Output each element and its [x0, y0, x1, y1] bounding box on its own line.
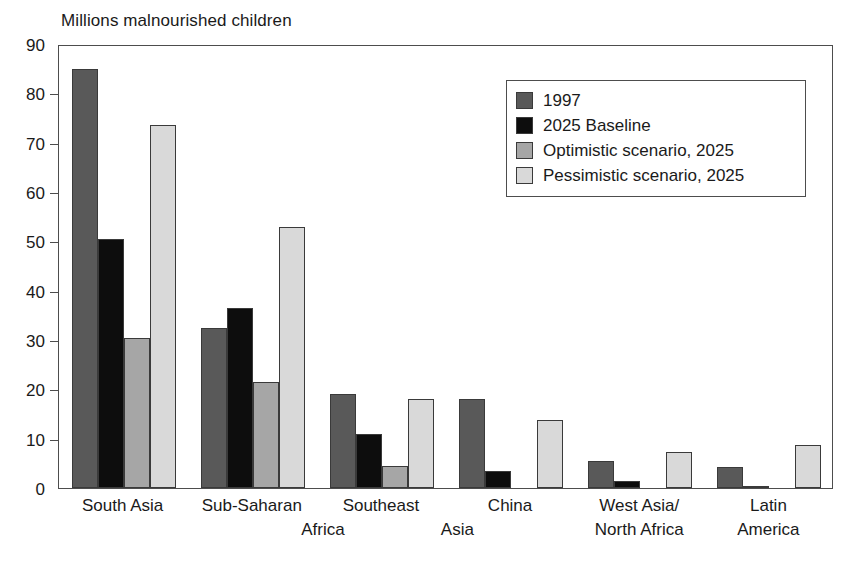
- bar: [98, 239, 124, 488]
- x-axis-label-line: South Asia: [82, 496, 163, 515]
- bar: [227, 308, 253, 488]
- x-axis-label-line: Asia: [286, 518, 476, 542]
- y-tick-mark: [50, 144, 58, 145]
- bar: [795, 445, 821, 488]
- bar: [588, 461, 614, 488]
- chart-legend: 19972025 BaselineOptimistic scenario, 20…: [506, 80, 806, 197]
- y-tick-label: 30: [26, 333, 45, 350]
- legend-item: Pessimistic scenario, 2025: [516, 163, 796, 188]
- y-tick-mark: [50, 440, 58, 441]
- bar: [150, 125, 176, 488]
- y-tick-label: 80: [26, 86, 45, 103]
- bar: [459, 399, 485, 488]
- bar: [485, 471, 511, 488]
- legend-item: 2025 Baseline: [516, 113, 796, 138]
- y-tick-mark: [50, 94, 58, 95]
- bar: [382, 466, 408, 488]
- y-tick-label: 50: [26, 234, 45, 251]
- bar: [614, 481, 640, 488]
- y-tick-label: 60: [26, 185, 45, 202]
- legend-item: 1997: [516, 88, 796, 113]
- bar: [253, 382, 279, 488]
- legend-swatch-icon: [516, 167, 533, 184]
- bar: [124, 338, 150, 488]
- y-tick-label: 70: [26, 135, 45, 152]
- legend-item-label: Pessimistic scenario, 2025: [543, 166, 744, 185]
- x-axis-label-line: Latin: [750, 496, 787, 515]
- y-tick-label: 10: [26, 431, 45, 448]
- bar: [279, 227, 305, 488]
- bar: [201, 328, 227, 488]
- bar-chart-figure: Millions malnourished children 010203040…: [0, 0, 845, 573]
- chart-title: Millions malnourished children: [61, 11, 292, 31]
- bar: [717, 467, 743, 488]
- y-tick-mark: [50, 193, 58, 194]
- bar: [356, 434, 382, 488]
- y-axis: 0102030405060708090: [0, 0, 58, 573]
- x-axis-label-line: China: [488, 496, 532, 515]
- bar: [537, 420, 563, 488]
- y-tick-label: 90: [26, 37, 45, 54]
- y-tick-mark: [50, 390, 58, 391]
- bar: [72, 69, 98, 488]
- legend-item-label: 1997: [543, 91, 581, 110]
- legend-item: Optimistic scenario, 2025: [516, 138, 796, 163]
- x-axis-category-label: LatinAmerica: [673, 494, 845, 542]
- bar: [330, 394, 356, 488]
- legend-item-label: 2025 Baseline: [543, 116, 651, 135]
- bar: [408, 399, 434, 488]
- legend-swatch-icon: [516, 142, 533, 159]
- y-tick-label: 40: [26, 283, 45, 300]
- y-tick-label: 20: [26, 382, 45, 399]
- x-axis-label-line: Southeast: [343, 496, 420, 515]
- x-axis: South AsiaSub-SaharanAfricaSoutheastAsia…: [0, 494, 845, 573]
- bar: [666, 452, 692, 488]
- bar: [743, 486, 769, 488]
- legend-swatch-icon: [516, 117, 533, 134]
- y-tick-mark: [50, 292, 58, 293]
- legend-item-label: Optimistic scenario, 2025: [543, 141, 734, 160]
- y-tick-mark: [50, 341, 58, 342]
- y-tick-mark: [50, 242, 58, 243]
- legend-swatch-icon: [516, 92, 533, 109]
- x-axis-label-line: West Asia/: [599, 496, 679, 515]
- x-axis-label-line: America: [673, 518, 845, 542]
